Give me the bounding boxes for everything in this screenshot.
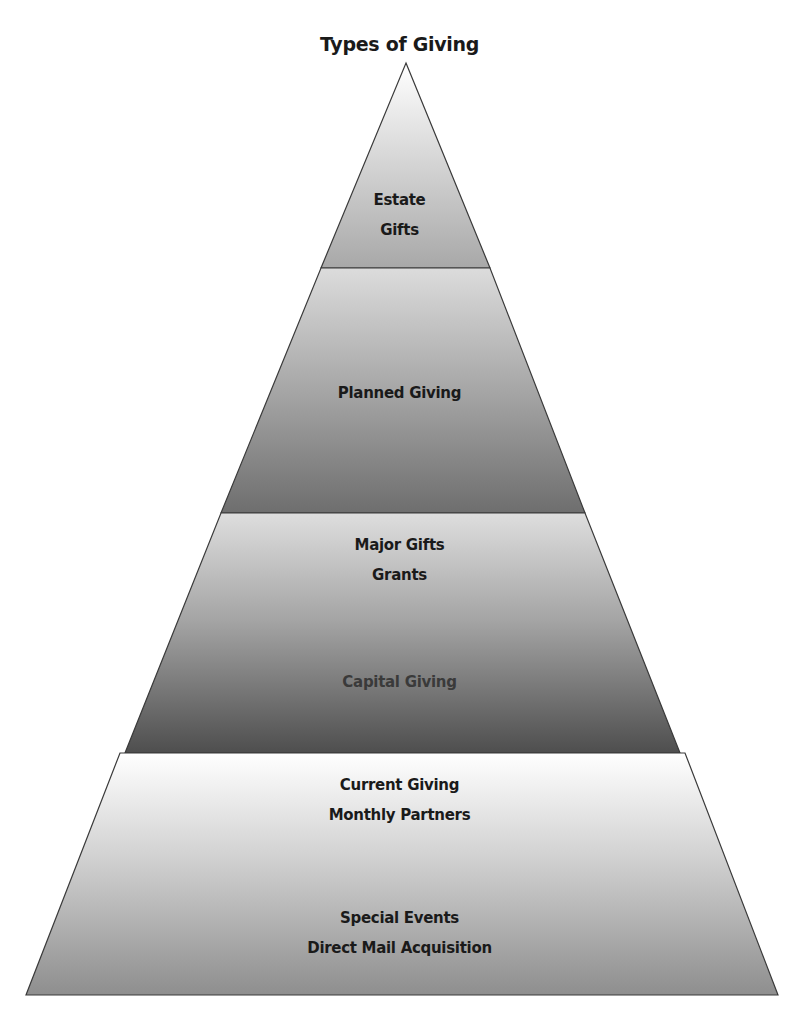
tier-major-label: Major Gifts Grants <box>0 530 799 590</box>
tier-estate-label: Estate Gifts <box>0 185 799 245</box>
tier-planned-label: Planned Giving <box>0 378 799 408</box>
tier-major-bottom-label: Capital Giving <box>0 667 799 697</box>
tier-current-label: Current Giving Monthly Partners <box>0 770 799 830</box>
pyramid <box>0 0 799 1022</box>
tier-current-bottom-label: Special Events Direct Mail Acquisition <box>0 903 799 963</box>
